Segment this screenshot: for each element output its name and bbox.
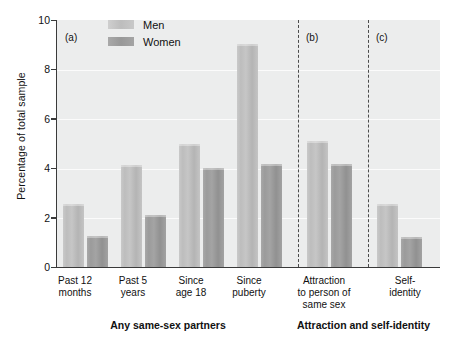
- panel-divider-c: [368, 20, 369, 267]
- y-tick-label-8: 8: [4, 64, 50, 75]
- bar-women-attraction: [331, 164, 352, 267]
- y-axis-title: Percentage of total sample: [15, 21, 27, 251]
- bar-men-attraction: [307, 141, 328, 268]
- bar-women-past-12-months: [87, 236, 108, 267]
- bar-men-past-12-months: [63, 204, 84, 267]
- legend: Men Women: [108, 16, 181, 50]
- panel-letter-b: (b): [306, 32, 318, 43]
- bar-women-since-age-18: [203, 168, 224, 267]
- legend-swatch-women-icon: [108, 37, 134, 46]
- x-label-attraction: Attraction to person of same sex: [281, 275, 367, 311]
- legend-item-women: Women: [108, 33, 181, 50]
- legend-label-women: Women: [143, 36, 181, 48]
- legend-label-men: Men: [143, 19, 164, 31]
- panel-letter-c: (c): [376, 32, 388, 43]
- y-tick-label-2: 2: [4, 213, 50, 224]
- x-label-line2: puberty: [214, 287, 284, 299]
- y-tick-label-10: 10: [4, 15, 50, 26]
- chart-figure: 10 8 6 4 2 0 Percentage of total sample: [0, 0, 451, 338]
- bar-men-self-identity: [377, 204, 398, 267]
- y-tick-label-4: 4: [4, 163, 50, 174]
- panel-divider-b: [298, 20, 299, 267]
- group-title-right: Attraction and self-identity: [276, 319, 451, 331]
- plot-area: (a) (b) (c): [56, 20, 440, 268]
- bar-women-self-identity: [401, 237, 422, 267]
- bar-men-since-age-18: [179, 144, 200, 267]
- x-label-since-puberty: Since puberty: [214, 275, 284, 299]
- group-title-left: Any same-sex partners: [46, 319, 290, 331]
- y-tick-label-0: 0: [4, 262, 50, 273]
- legend-item-men: Men: [108, 16, 181, 33]
- bar-women-past-5-years: [145, 215, 166, 267]
- x-label-line3: same sex: [281, 299, 367, 311]
- x-label-line2: identity: [370, 287, 440, 299]
- bar-men-past-5-years: [121, 165, 142, 267]
- x-label-line2: to person of: [281, 287, 367, 299]
- x-label-line1: Self-: [370, 275, 440, 287]
- legend-swatch-men-icon: [108, 20, 134, 29]
- bar-women-since-puberty: [261, 164, 282, 267]
- x-label-self-identity: Self- identity: [370, 275, 440, 299]
- panel-letter-a: (a): [65, 32, 77, 43]
- y-tick-label-6: 6: [4, 114, 50, 125]
- bar-men-since-puberty: [237, 44, 258, 267]
- x-label-line1: Attraction: [281, 275, 367, 287]
- x-label-line1: Since: [214, 275, 284, 287]
